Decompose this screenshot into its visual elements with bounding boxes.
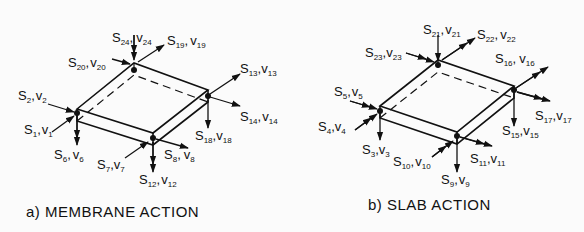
moment-arrow-icon	[406, 53, 426, 59]
label-s6: S6,v6	[54, 147, 84, 164]
label-s15: S15,v15	[502, 123, 539, 140]
label-s23: S23,v23	[365, 45, 402, 62]
label-s3: S3,v3	[362, 142, 390, 159]
label-s17: S17,v17	[535, 108, 572, 125]
label-s5: S5,v5	[334, 84, 363, 101]
node-dot	[377, 108, 383, 114]
arrow-icon	[112, 59, 130, 64]
moment-arrow-icon	[460, 137, 484, 144]
membrane-top-face	[77, 63, 208, 133]
arrow-icon	[125, 142, 148, 158]
label-s24: S24,v24	[112, 30, 152, 47]
arrow-icon	[210, 97, 240, 106]
label-s2: S2,v2	[18, 88, 47, 105]
node-dot	[435, 62, 441, 68]
label-s8: S8,v8	[164, 147, 195, 164]
label-s7: S7,v7	[97, 157, 125, 174]
label-s16: S16,v16	[495, 51, 535, 68]
label-s21: S21,v21	[423, 22, 461, 39]
moment-arrow-icon	[350, 101, 370, 107]
arrow-icon	[52, 116, 74, 132]
caption-slab-action: b) SLAB ACTION	[368, 196, 491, 213]
membrane-element: S24,v24 S19,v19 S20,v20 S13,v13 S2,v2 S1…	[18, 30, 278, 220]
caption-membrane-action: a) MEMBRANE ACTION	[26, 203, 199, 220]
label-s11: S11,v11	[470, 151, 506, 168]
moment-arrow-icon	[355, 118, 371, 130]
slab-top-face	[380, 60, 514, 132]
moment-arrow-icon	[516, 72, 540, 88]
node-dot	[454, 133, 460, 139]
membrane-side-edges	[77, 90, 208, 145]
label-s9: S9,v9	[441, 172, 470, 189]
node-dot	[131, 67, 137, 73]
moment-arrow-icon	[442, 43, 467, 60]
label-s19: S19,v19	[167, 33, 206, 50]
arrow-icon	[48, 104, 74, 112]
label-s22: S22,v22	[477, 27, 516, 44]
label-s12: S12,v12	[139, 172, 177, 189]
arrow-icon	[210, 74, 240, 94]
slab-hidden-edges	[380, 60, 514, 118]
node-dot	[150, 135, 156, 141]
label-s1: S1,v1	[24, 122, 53, 139]
label-s14: S14,v14	[240, 109, 278, 126]
label-s18: S18,v18	[195, 128, 232, 145]
label-s13: S13,v13	[240, 61, 277, 78]
diagram-canvas: S24,v24 S19,v19 S20,v20 S13,v13 S2,v2 S1…	[0, 0, 584, 232]
label-s4: S4,v4	[318, 119, 346, 136]
slab-side-edges	[380, 86, 514, 144]
label-s10: S10,v10	[393, 154, 431, 171]
moment-arrow-icon	[517, 92, 542, 99]
arrow-icon	[138, 45, 164, 62]
slab-element: S21,v21 S22,v22 S23,v23 S16,v16 S5,v5 S1…	[318, 22, 572, 213]
label-s20: S20,v20	[68, 55, 106, 72]
moment-arrow-icon	[432, 146, 446, 157]
